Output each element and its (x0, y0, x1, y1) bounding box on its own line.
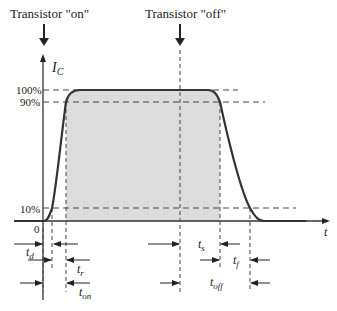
transistor-on-label: Transistor "on" (10, 6, 89, 21)
x-axis-label: t (324, 225, 328, 239)
ton-label: ton (79, 285, 92, 301)
on-arrow-icon (39, 24, 49, 46)
ts-label: ts (198, 237, 205, 253)
toff-label: toff (210, 275, 224, 291)
shaded-on-region (66, 90, 220, 221)
interval-arrows (14, 244, 270, 283)
tf-label: tf (233, 253, 240, 269)
level-90-label: 90% (20, 96, 40, 108)
y-axis-label: IC (51, 60, 64, 77)
tr-label: tr (77, 262, 84, 278)
off-arrow-icon (175, 24, 185, 46)
switching-time-diagram: Transistor "on" Transistor "off" IC t 0 … (0, 0, 337, 311)
level-100-label: 100% (16, 84, 42, 96)
origin-label: 0 (34, 223, 40, 235)
transistor-off-label: Transistor "off" (145, 6, 226, 21)
td-label: td (26, 245, 34, 261)
level-10-label: 10% (20, 203, 40, 215)
